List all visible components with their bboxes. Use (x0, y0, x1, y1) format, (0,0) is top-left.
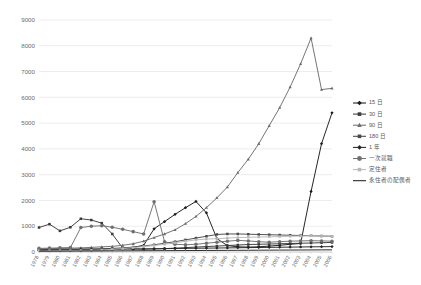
line-chart: 0100020003000400050006000700080009000197… (0, 0, 421, 285)
data-point-marker (278, 240, 282, 244)
legend-label: 定住者 (369, 165, 387, 173)
data-point-marker (320, 235, 323, 238)
data-point-marker (48, 246, 52, 250)
x-axis-tick-label: 2000 (259, 255, 270, 268)
legend-item[interactable]: 30 日 (353, 111, 383, 118)
x-axis-tick-label: 1979 (40, 255, 51, 268)
x-axis-tick-label: 2005 (312, 255, 323, 268)
y-axis-tick-label: 1000 (21, 222, 35, 229)
data-point-marker (216, 237, 219, 240)
data-point-marker (247, 243, 250, 246)
data-point-marker (38, 226, 41, 229)
chart-container: 0100020003000400050006000700080009000197… (0, 0, 421, 285)
y-axis-tick-label: 9000 (21, 16, 35, 23)
y-axis-tick-label: 4000 (21, 145, 35, 152)
data-point-marker (289, 85, 292, 88)
data-point-marker (132, 246, 135, 249)
legend-item[interactable]: 一次就職 (353, 154, 393, 162)
data-point-marker (58, 246, 62, 250)
legend-item[interactable]: 90 日 (353, 122, 383, 129)
data-point-marker (258, 233, 261, 236)
data-point-marker (163, 240, 167, 244)
data-point-marker (184, 243, 188, 247)
x-axis-tick-label: 1985 (102, 255, 113, 268)
data-point-marker (69, 226, 72, 229)
y-axis-tick-label: 2000 (21, 197, 35, 204)
data-point-marker (226, 233, 229, 236)
data-point-marker (69, 246, 73, 250)
data-point-marker (320, 245, 323, 248)
data-point-marker (310, 235, 313, 238)
data-point-marker (48, 223, 51, 226)
data-point-marker (278, 246, 281, 249)
legend-label: 15 日 (369, 99, 383, 106)
legend-item[interactable]: 1 年 (353, 143, 380, 151)
legend-item[interactable]: 15 日 (353, 99, 383, 106)
x-axis-tick-labels: 1978197919801981198219831984198519861987… (29, 252, 333, 268)
data-point-marker (320, 142, 323, 145)
y-axis-tick-label: 6000 (21, 94, 35, 101)
x-axis-tick-label: 1994 (196, 255, 207, 268)
data-point-marker (268, 236, 271, 239)
data-point-marker (100, 224, 104, 228)
data-point-marker (236, 239, 240, 243)
x-axis-tick-label: 1992 (176, 255, 187, 268)
legend-item[interactable]: 定住者 (353, 165, 387, 173)
legend: 15 日30 日90 日180 日1 年一次就職定住者永住者の配偶者 (353, 99, 411, 184)
data-point-marker (111, 233, 114, 236)
data-point-marker (142, 232, 146, 236)
data-point-marker (237, 236, 240, 239)
y-axis-tick-label: 8000 (21, 42, 35, 49)
x-axis-tick-label: 1987 (123, 255, 134, 268)
x-axis-tick-label: 1996 (217, 255, 228, 268)
data-point-marker (247, 239, 251, 243)
x-axis-tick-label: 1988 (134, 255, 145, 268)
data-point-marker (330, 245, 333, 248)
data-point-marker (194, 242, 198, 246)
data-point-marker (358, 135, 362, 139)
x-axis-tick-label: 1990 (155, 255, 166, 268)
x-axis-tick-label: 1978 (29, 255, 40, 268)
data-point-marker (80, 217, 83, 220)
series-1 (37, 111, 333, 252)
data-point-marker (358, 168, 362, 172)
data-point-marker (358, 112, 362, 116)
legend-label: 一次就職 (369, 154, 393, 162)
data-point-marker (163, 243, 166, 246)
legend-item[interactable]: 永住者の配偶者 (353, 176, 411, 184)
data-point-marker (331, 235, 334, 238)
data-point-marker (309, 190, 312, 193)
data-point-marker (247, 236, 250, 239)
data-point-marker (59, 230, 62, 233)
data-point-marker (37, 247, 41, 251)
legend-label: 180 日 (369, 133, 386, 140)
data-point-marker (267, 240, 271, 244)
data-point-marker (226, 237, 229, 240)
data-point-marker (309, 239, 313, 243)
legend-label: 30 日 (369, 111, 383, 118)
data-point-marker (247, 233, 250, 236)
data-point-marker (153, 244, 156, 247)
legend-label: 永住者の配偶者 (369, 176, 411, 184)
data-point-marker (79, 226, 83, 230)
x-axis-tick-label: 1993 (186, 255, 197, 268)
data-point-marker (330, 239, 334, 243)
data-point-marker (357, 145, 362, 150)
data-point-marker (195, 239, 198, 242)
x-axis-tick-label: 1995 (207, 255, 218, 268)
data-point-marker (258, 236, 261, 239)
data-point-marker (357, 156, 362, 161)
data-point-marker (299, 245, 302, 248)
data-point-marker (330, 111, 333, 114)
y-axis-tick-label: 7000 (21, 68, 35, 75)
data-point-marker (289, 245, 292, 248)
legend-item[interactable]: 180 日 (353, 133, 386, 140)
data-point-marker (121, 228, 125, 232)
data-point-marker (111, 248, 114, 251)
x-axis-tick-label: 2003 (291, 255, 302, 268)
data-point-marker (289, 235, 292, 238)
data-point-marker (142, 245, 145, 248)
data-point-marker (215, 240, 219, 244)
data-point-marker (110, 225, 114, 229)
x-axis-tick-label: 1980 (50, 255, 61, 268)
